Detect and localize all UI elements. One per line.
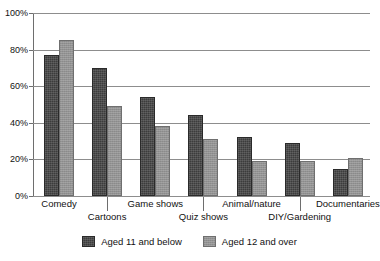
y-axis-tick-label: 100% (0, 9, 28, 18)
y-axis-tick (29, 13, 33, 14)
y-axis-tick (29, 123, 33, 124)
x-axis-category-label: Cartoons (88, 212, 127, 222)
bar (300, 161, 315, 196)
bar (155, 126, 170, 196)
bar (140, 97, 155, 196)
bar-group (237, 13, 267, 196)
x-axis-category-label: Comedy (41, 199, 76, 209)
legend-swatch-icon (203, 236, 216, 247)
bar-group (44, 13, 74, 196)
y-axis-tick (29, 86, 33, 87)
x-axis-category-label: Documentaries (316, 199, 380, 209)
bar-group (140, 13, 170, 196)
bar (333, 169, 348, 196)
y-axis-tick-label: 20% (0, 155, 28, 164)
x-axis-tick (107, 197, 108, 211)
gridline (33, 196, 370, 197)
legend-swatch-icon (82, 236, 95, 247)
legend-item-aged-12-and-over: Aged 12 and over (203, 236, 297, 247)
bar (348, 158, 363, 196)
legend-item-label: Aged 12 and over (222, 237, 297, 247)
y-axis-tick-label: 60% (0, 82, 28, 91)
x-axis-category-label: Game shows (128, 199, 183, 209)
bar (237, 137, 252, 196)
bar (188, 115, 203, 196)
bar (92, 68, 107, 196)
x-axis-category-label: Animal/nature (222, 199, 281, 209)
y-axis-tick (29, 50, 33, 51)
x-axis-tick (300, 197, 301, 211)
bar (107, 106, 122, 196)
legend-item-aged-11-and-below: Aged 11 and below (82, 236, 182, 247)
bar-group (285, 13, 315, 196)
x-axis-category-label: Quiz shows (179, 212, 228, 222)
bar-group (333, 13, 363, 196)
x-axis-tick (203, 197, 204, 211)
plot-area (33, 13, 370, 196)
legend-item-label: Aged 11 and below (101, 237, 182, 247)
y-axis-tick-label: 0% (0, 192, 28, 201)
y-axis-tick-label: 40% (0, 119, 28, 128)
bar (44, 55, 59, 196)
y-axis-tick (29, 159, 33, 160)
bar-group (92, 13, 122, 196)
x-axis-category-label: DIY/Gardening (268, 212, 331, 222)
bar (285, 143, 300, 196)
bar (252, 161, 267, 196)
bar (203, 139, 218, 196)
y-axis-tick (29, 196, 33, 197)
bar-group (188, 13, 218, 196)
bar (59, 40, 74, 196)
y-axis-tick-label: 80% (0, 46, 28, 55)
chart-legend: Aged 11 and below Aged 12 and over (0, 236, 379, 247)
